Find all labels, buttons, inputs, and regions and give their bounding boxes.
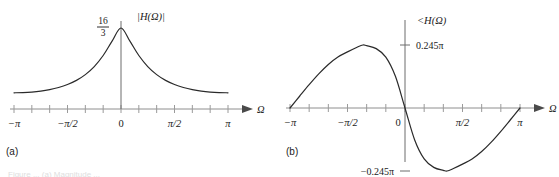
peak-value-numerator: 16: [98, 16, 108, 26]
x-tick-label: −π/2: [57, 118, 78, 129]
x-tick-label: −π: [8, 118, 21, 129]
x-tick-label: π/2: [168, 118, 182, 129]
panel-magnitude: −π−π/20π/2πΩ|H(Ω)|163: [0, 0, 280, 177]
peak-value-denominator: 3: [101, 28, 106, 38]
phase-curve-label: <H(Ω): [417, 15, 447, 27]
magnitude-plot: −π−π/20π/2πΩ|H(Ω)|163: [0, 0, 280, 145]
x-tick-label: 0: [118, 118, 123, 129]
x-axis-title: Ω: [549, 103, 557, 114]
y-tick-label: 0.245π: [416, 40, 444, 51]
panel-phase: −0.245π0.245π−π−π/20π/2πΩ<H(Ω): [280, 0, 559, 177]
y-tick-label: −0.245π: [361, 166, 394, 177]
panel-caption-b: (b): [286, 146, 298, 157]
x-axis-title: Ω: [257, 104, 265, 115]
x-tick-label: π: [225, 118, 231, 129]
x-tick-label: −π/2: [337, 117, 358, 128]
panel-caption-a: (a): [6, 146, 18, 157]
x-axis-arrowhead: [242, 105, 253, 113]
x-tick-label: π: [517, 117, 523, 128]
x-axis-arrowhead: [534, 104, 545, 112]
figure-container: −π−π/20π/2πΩ|H(Ω)|163 −0.245π0.245π−π−π/…: [0, 0, 559, 177]
x-tick-label: −π: [284, 117, 297, 128]
figure-caption: Figure ... (a) Magnitude ...: [8, 170, 100, 177]
phase-plot: −0.245π0.245π−π−π/20π/2πΩ<H(Ω): [280, 0, 559, 145]
x-tick-label: 0: [395, 117, 400, 128]
magnitude-curve-label: |H(Ω)|: [137, 11, 165, 23]
x-tick-label: π/2: [456, 117, 470, 128]
